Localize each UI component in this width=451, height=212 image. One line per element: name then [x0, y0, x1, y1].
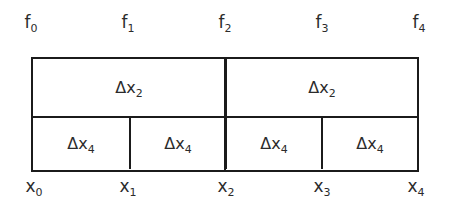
- coarse-cell-1-sub: 2: [136, 87, 143, 100]
- fine-cell-4-sub: 4: [377, 143, 384, 156]
- coarse-cell-2-sub: 2: [329, 87, 336, 100]
- fine-cell-4-label: Δx4: [356, 136, 383, 152]
- fine-cell-2-label: Δx4: [164, 136, 191, 152]
- coarse-cell-2-label: Δx2: [308, 80, 335, 96]
- fine-cell-2: Δx4: [129, 118, 225, 169]
- coarse-cell-1: Δx2: [33, 59, 225, 116]
- bottom-tick-base-x1: x: [119, 176, 129, 196]
- bottom-tick-sub-x4: 4: [418, 186, 425, 199]
- top-tick-label-f0: f0: [25, 14, 38, 31]
- fine-cell-3: Δx4: [225, 118, 321, 169]
- fine-cell-3-sub: 4: [281, 143, 288, 156]
- fine-cell-1-sub: 4: [88, 143, 95, 156]
- fine-cell-4-base: Δx: [356, 134, 376, 153]
- bottom-tick-base-x0: x: [25, 176, 35, 196]
- coarse-cell-1-base: Δx: [115, 78, 135, 97]
- top-tick-sub-f3: 3: [322, 22, 329, 35]
- bottom-tick-sub-x2: 2: [228, 186, 235, 199]
- fine-cell-2-sub: 4: [185, 143, 192, 156]
- bottom-tick-label-x1: x1: [119, 178, 136, 195]
- top-tick-sub-f1: 1: [128, 22, 135, 35]
- coarse-cell-2: Δx2: [225, 59, 417, 116]
- bottom-tick-sub-x1: 1: [130, 186, 137, 199]
- fine-cell-1: Δx4: [33, 118, 129, 169]
- top-tick-label-f2: f2: [219, 14, 232, 31]
- center-divider-line: [224, 59, 227, 170]
- coarse-cell-2-base: Δx: [308, 78, 328, 97]
- bottom-tick-label-x3: x3: [313, 178, 330, 195]
- top-tick-label-f1: f1: [122, 14, 135, 31]
- fine-cell-1-base: Δx: [67, 134, 87, 153]
- fine-cell-2-base: Δx: [164, 134, 184, 153]
- top-tick-sub-f4: 4: [419, 22, 426, 35]
- fine-cell-4: Δx4: [321, 118, 417, 169]
- fine-cell-3-base: Δx: [260, 134, 280, 153]
- bottom-tick-label-x0: x0: [25, 178, 42, 195]
- fine-cell-1-label: Δx4: [67, 136, 94, 152]
- fine-cell-3-label: Δx4: [260, 136, 287, 152]
- top-tick-sub-f2: 2: [225, 22, 232, 35]
- bottom-tick-sub-x3: 3: [324, 186, 331, 199]
- bottom-tick-label-x4: x4: [407, 178, 424, 195]
- bottom-tick-sub-x0: 0: [36, 186, 43, 199]
- bottom-tick-base-x4: x: [407, 176, 417, 196]
- bottom-tick-base-x3: x: [313, 176, 323, 196]
- bottom-tick-base-x2: x: [217, 176, 227, 196]
- bottom-tick-label-x2: x2: [217, 178, 234, 195]
- interval-subdivision-figure: f0 f1 f2 f3 f4 Δx2 Δx2 Δx4 Δx4: [0, 0, 451, 212]
- top-tick-label-f3: f3: [316, 14, 329, 31]
- subdivision-grid: Δx2 Δx2 Δx4 Δx4 Δx4 Δx4: [31, 57, 419, 172]
- top-tick-sub-f0: 0: [31, 22, 38, 35]
- coarse-cell-1-label: Δx2: [115, 80, 142, 96]
- top-tick-label-f4: f4: [413, 14, 426, 31]
